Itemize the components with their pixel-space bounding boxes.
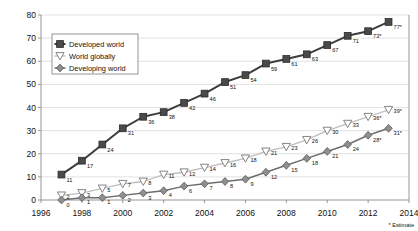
y-tick-label: 10	[27, 172, 37, 182]
data-point	[344, 32, 351, 39]
data-point	[99, 141, 106, 148]
x-tick-label: 2006	[236, 208, 255, 218]
data-point	[181, 99, 188, 106]
data-label: 28*	[373, 137, 382, 143]
data-label: 54	[250, 77, 256, 83]
x-tick-label: 2014	[400, 208, 418, 218]
chart-legend: Developed worldWorld globallyDeveloping …	[52, 34, 138, 74]
data-label: 77*	[394, 24, 403, 30]
data-label: 71	[353, 38, 359, 44]
data-label: 21	[332, 153, 338, 159]
legend-marker	[57, 41, 64, 48]
data-label: 12	[189, 171, 195, 177]
data-label: 15	[291, 167, 297, 173]
y-tick-label: 70	[27, 33, 37, 43]
x-tick-label: 2010	[318, 208, 337, 218]
y-tick-label: 0	[31, 195, 36, 205]
data-label: 16	[230, 162, 236, 168]
data-label: 26	[312, 138, 318, 144]
data-point	[303, 51, 310, 58]
data-label: 21	[271, 150, 277, 156]
data-point	[262, 60, 269, 67]
data-label: 31*	[394, 130, 403, 136]
data-label: 3	[148, 195, 151, 201]
legend-label: Developed world	[69, 40, 124, 49]
data-label: 36	[148, 119, 154, 125]
data-label: 42	[189, 105, 195, 111]
legend-label: Developing world	[69, 64, 126, 73]
x-tick-label: 1998	[72, 208, 91, 218]
data-point	[385, 19, 392, 26]
data-point	[283, 56, 290, 63]
data-point	[160, 109, 167, 116]
footnote-estimate: * Estimate	[389, 222, 415, 228]
data-label: 12	[271, 174, 277, 180]
data-label: 7	[128, 182, 131, 188]
line-chart: 01020304050607080 1996199820002002200420…	[0, 0, 418, 231]
data-point	[58, 171, 65, 178]
data-label: 3	[87, 192, 90, 198]
data-label: 11	[169, 173, 175, 179]
chart-container: 01020304050607080 1996199820002002200420…	[0, 0, 418, 231]
data-label: 9	[250, 181, 253, 187]
data-label: 11	[66, 177, 72, 183]
x-tick-label: 2012	[359, 208, 378, 218]
data-label: 5	[107, 187, 110, 193]
data-point	[222, 79, 229, 86]
data-label: 31	[128, 130, 134, 136]
y-tick-label: 80	[27, 10, 37, 20]
data-label: 1	[87, 199, 90, 205]
x-tick-label: 2004	[195, 208, 214, 218]
data-label: 2	[128, 197, 131, 203]
data-label: 4	[169, 192, 172, 198]
data-label: 61	[291, 61, 297, 67]
x-tick-label: 2008	[277, 208, 296, 218]
data-label: 73*	[373, 33, 382, 39]
data-label: 51	[230, 84, 236, 90]
data-point	[78, 157, 85, 164]
legend-label: World globally	[69, 52, 116, 61]
data-point	[365, 28, 372, 35]
data-point	[242, 72, 249, 79]
x-tick-label: 1996	[32, 208, 51, 218]
data-label: 30	[332, 129, 338, 135]
data-label: 8	[148, 180, 151, 186]
data-label: 7	[210, 185, 213, 191]
data-label: 36*	[373, 115, 382, 121]
y-tick-label: 60	[27, 56, 37, 66]
data-point	[119, 125, 126, 132]
data-label: 6	[189, 188, 192, 194]
y-tick-label: 40	[27, 103, 37, 113]
data-label: 18	[250, 157, 256, 163]
data-label: 1	[107, 199, 110, 205]
x-tick-label: 2002	[154, 208, 173, 218]
data-label: 67	[332, 47, 338, 53]
data-label: 63	[312, 56, 318, 62]
data-label: 39*	[394, 108, 403, 114]
data-point	[324, 42, 331, 49]
data-label: 24	[107, 147, 113, 153]
data-label: 18	[312, 160, 318, 166]
y-tick-label: 20	[27, 149, 37, 159]
data-label: 23	[291, 145, 297, 151]
data-label: 38	[169, 114, 175, 120]
data-label: 14	[210, 166, 216, 172]
data-label: 2	[66, 194, 69, 200]
data-label: 59	[271, 66, 277, 72]
data-label: 0	[66, 202, 69, 208]
y-tick-label: 50	[27, 79, 37, 89]
x-tick-label: 2000	[113, 208, 132, 218]
data-point	[140, 113, 147, 120]
data-label: 8	[230, 183, 233, 189]
data-label: 46	[210, 96, 216, 102]
data-point	[201, 90, 208, 97]
data-label: 24	[353, 146, 359, 152]
data-label: 17	[87, 163, 93, 169]
data-label: 33	[353, 122, 359, 128]
y-tick-label: 30	[27, 126, 37, 136]
